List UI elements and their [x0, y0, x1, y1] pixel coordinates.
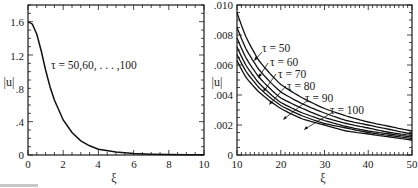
- right-curves: [237, 13, 412, 141]
- left-ytick-1: .4: [16, 116, 25, 128]
- right-xtick-3: 40: [363, 158, 375, 170]
- left-tick-marks: [28, 5, 204, 155]
- left-ytick-2: .8: [16, 83, 25, 95]
- figure: 0 .4 .8 1.2 1.6 0 2 4 6 8 10 |u| ξ τ = 5…: [0, 0, 418, 188]
- left-xtick-4: 8: [166, 158, 172, 170]
- label-tau-90: τ = 90: [305, 92, 334, 104]
- right-ytick-4: .008: [214, 29, 234, 41]
- left-ytick-3: 1.2: [10, 50, 24, 62]
- right-xtick-4: 50: [407, 158, 418, 170]
- label-tau-70: τ = 70: [278, 68, 307, 80]
- label-tau-50: τ = 50: [262, 42, 291, 54]
- left-chart: 0 .4 .8 1.2 1.6 0 2 4 6 8 10 |u| ξ τ = 5…: [4, 5, 210, 185]
- left-xtick-5: 10: [199, 158, 211, 170]
- left-xtick-2: 4: [95, 158, 101, 170]
- left-x-axis-label: ξ: [111, 171, 117, 185]
- right-tick-marks: [237, 5, 412, 155]
- right-chart: 0 .002 .004 .006 .008 .010 10 20 30 40 5…: [212, 0, 418, 185]
- left-plot-frame: [28, 5, 204, 155]
- right-ytick-2: .004: [214, 89, 234, 101]
- right-plot-frame: [237, 5, 412, 155]
- right-ytick-3: .006: [214, 59, 234, 71]
- left-ytick-4: 1.6: [10, 16, 24, 28]
- label-tau-60: τ = 60: [270, 56, 299, 68]
- arrow-tau-100-icon: [304, 126, 308, 130]
- left-xtick-3: 6: [131, 158, 137, 170]
- left-tau-annotation: τ = 50,60, . . . ,100: [51, 59, 137, 72]
- left-xtick-1: 2: [60, 158, 66, 170]
- left-xtick-0: 0: [25, 158, 31, 170]
- right-y-axis-label: |u|: [212, 75, 223, 89]
- right-xtick-1: 20: [276, 158, 288, 170]
- left-y-axis-label: |u|: [4, 75, 15, 89]
- left-ytick-0: 0: [19, 149, 25, 161]
- right-x-axis-label: ξ: [320, 171, 326, 185]
- figure-caption-fragment: [0, 184, 38, 187]
- label-tau-100: τ = 100: [330, 104, 364, 116]
- right-xtick-0: 10: [232, 158, 244, 170]
- label-tau-80: τ = 80: [287, 80, 316, 92]
- right-xtick-2: 30: [320, 158, 332, 170]
- right-ytick-5: .010: [214, 0, 234, 11]
- right-ytick-1: .002: [214, 119, 233, 131]
- left-curve: [28, 22, 204, 155]
